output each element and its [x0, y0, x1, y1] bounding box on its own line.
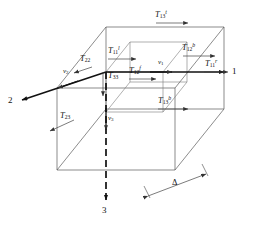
stress-label-T23: T23	[60, 111, 70, 121]
velocity-label-v2: v2	[63, 68, 69, 75]
delta-label: Δ	[172, 178, 177, 187]
stress-label-T11-right: T11r	[205, 59, 217, 69]
velocity-label-v3: v3	[108, 115, 114, 122]
stress-label-T12-back: T12b	[182, 43, 195, 53]
stress-label-T22: T22	[80, 54, 90, 64]
stress-label-T33: T33	[108, 71, 118, 81]
velocity-label-v1: v1	[158, 59, 164, 66]
axis-label-1: 1	[232, 67, 237, 76]
stress-label-T11-left: T11l	[108, 46, 120, 56]
T23-arrow	[50, 120, 74, 131]
outer-box	[57, 27, 224, 170]
control-volume-drawing	[0, 0, 256, 226]
v2-arrow	[58, 81, 78, 88]
stress-arrows	[50, 23, 228, 131]
outer-bottom-face	[57, 109, 224, 170]
axis-label-3: 3	[102, 206, 107, 215]
T22-arrow	[74, 67, 92, 73]
stress-label-T13-bottom: T13b	[158, 96, 171, 106]
figure-canvas: T13t T12b T11r T11l T22 T33 T12f T13b T2…	[0, 0, 256, 226]
stress-label-T13-top: T13t	[155, 10, 167, 20]
stress-label-T12-front: T12f	[129, 66, 141, 76]
axis-label-2: 2	[8, 96, 13, 105]
